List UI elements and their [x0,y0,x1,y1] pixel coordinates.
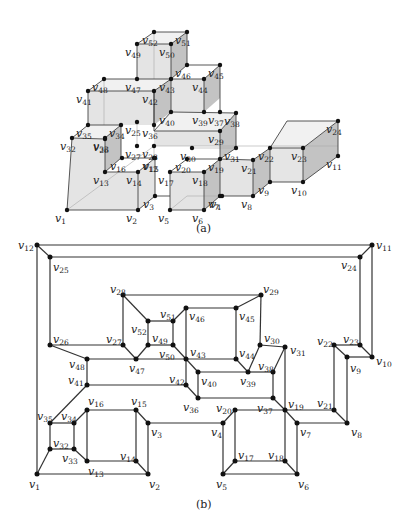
vertex-v40 [169,110,173,114]
vertex-label-v35: v35 [37,410,53,424]
vertex-v24 [358,255,363,260]
vertex-v1 [35,472,40,477]
vertex-label-v32: v32 [53,437,69,451]
vertex-label-v48: v48 [69,358,85,372]
vertex-v52 [146,319,151,324]
vertex-v50 [169,42,173,46]
vertex-v21 [251,158,255,162]
vertex-v10 [301,180,305,184]
vertex-v31 [283,345,288,350]
vertex-v25 [48,255,53,260]
vertex-label-v25: v25 [125,124,141,138]
vertex-v5 [168,208,172,212]
vertex-v49 [146,343,151,348]
vertex-v11 [370,243,375,248]
vertex-v27 [135,144,139,148]
vertex-v29 [218,129,222,133]
edge-v26-v48 [50,345,87,359]
edge-v43-v40 [186,359,198,372]
vertex-v31 [234,146,238,150]
vertex-label-v34: v34 [61,410,77,424]
edge-v32-v1 [37,449,50,474]
vertex-v6 [202,208,206,212]
edge-v11-v24 [360,245,372,257]
vertex-v38 [234,111,238,115]
vertex-v28 [152,144,156,148]
vertex-label-v7: v7 [208,198,219,212]
vertex-label-v17: v17 [238,449,254,463]
vertex-v41 [86,89,90,93]
vertex-v11 [336,154,340,158]
vertex-label-v6: v6 [298,478,309,492]
vertex-label-v28: v28 [142,148,158,162]
vertex-v40 [196,370,201,375]
vertex-label-v51: v51 [160,308,176,322]
edge-v29-v30 [260,295,261,345]
vertex-label-v20: v20 [216,402,232,416]
vertex-v18 [202,170,206,174]
vertex-label-v31: v31 [224,150,240,164]
vertex-label-v33: v33 [62,452,78,466]
edge-v17-v5 [223,461,235,474]
vertex-v19 [283,408,288,413]
panel-a-polycube: v1v2v3v4v5v6v7v8v9v10v11v12v13v14v15v16v… [55,30,342,235]
edge-v12-v25 [37,245,50,257]
vertex-label-v50: v50 [159,348,175,362]
vertex-v47 [134,357,139,362]
vertex-v35 [86,123,90,127]
vertex-v33 [103,136,107,140]
vertex-label-v19: v19 [288,398,304,412]
vertex-label-v21: v21 [317,397,333,411]
vertex-v1 [65,208,69,212]
vertex-label-v8: v8 [241,198,252,212]
vertex-label-v29: v29 [263,283,279,297]
vertex-label-v30: v30 [180,150,196,164]
edge-v21-v8 [334,410,347,423]
vertex-v26 [48,343,53,348]
edge-v49-v47 [136,345,148,359]
vertex-label-v2: v2 [149,478,160,492]
vertex-v50 [171,343,176,348]
vertex-v51 [185,30,189,34]
vertex-v41 [85,383,90,388]
vertex-v30 [190,146,194,150]
vertex-v33 [72,447,77,452]
edge-v37-v19 [273,398,285,410]
vertex-label-v38: v38 [258,360,274,374]
vertex-label-v41: v41 [68,374,84,388]
vertex-v48 [85,357,90,362]
vertex-v24 [336,119,340,123]
vertex-v8 [251,194,255,198]
vertex-v2 [136,208,140,212]
vertex-label-v16: v16 [110,160,126,174]
vertex-label-v27: v27 [106,333,122,347]
vertex-label-v25: v25 [53,261,69,275]
vertex-v17 [168,170,172,174]
vertex-label-v9: v9 [350,362,361,376]
vertex-label-v10: v10 [376,355,392,369]
vertex-label-v15: v15 [131,395,147,409]
vertex-v37 [271,396,276,401]
vertex-label-v27: v27 [125,148,141,162]
vertex-label-v10: v10 [291,184,307,198]
vertex-label-v8: v8 [351,426,362,440]
vertex-v23 [301,146,305,150]
vertex-label-v3: v3 [143,198,154,212]
vertex-label-v12: v12 [18,239,34,253]
vertex-v14 [136,170,140,174]
vertex-label-v26: v26 [53,333,69,347]
vertex-label-v7: v7 [300,426,311,440]
vertex-v42 [152,89,156,93]
figure-canvas: v1v2v3v4v5v6v7v8v9v10v11v12v13v14v15v16v… [0,0,411,523]
edge-v28-v52 [123,295,148,321]
vertex-v7 [295,421,300,426]
panel-b-caption: (b) [196,498,212,511]
vertex-v9 [268,180,272,184]
vertex-label-v49: v49 [152,332,168,346]
vertex-label-v42: v42 [169,373,185,387]
edge-v31-v38 [273,347,285,372]
vertex-label-v39: v39 [240,375,256,389]
edge-v22-v9 [334,345,347,357]
vertex-label-v16: v16 [88,395,104,409]
vertex-v43 [184,357,189,362]
